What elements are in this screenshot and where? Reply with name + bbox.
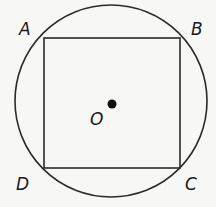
label-a: A: [18, 19, 31, 39]
label-c: C: [185, 174, 197, 194]
label-b: B: [191, 19, 203, 39]
diagram-canvas: A B C D O: [0, 0, 216, 207]
center-point-o: [108, 100, 117, 109]
label-o: O: [90, 109, 103, 129]
label-d: D: [16, 174, 29, 194]
